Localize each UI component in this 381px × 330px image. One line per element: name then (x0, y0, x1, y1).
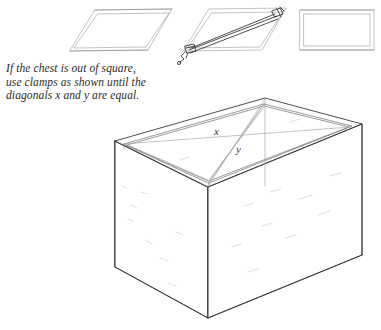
caption-line-1: If the chest is out of square, (6, 62, 186, 76)
figure-page: .ln { fill:none; stroke:#3a3a3a; stroke-… (0, 0, 381, 330)
step-clamped-frame (177, 7, 286, 65)
step-squared-frame (300, 10, 374, 50)
step-out-of-square-frame (70, 9, 172, 51)
chest-left-face (115, 141, 208, 318)
chest-drawing (115, 98, 362, 318)
illustration-canvas: .ln { fill:none; stroke:#3a3a3a; stroke-… (0, 0, 381, 330)
diagonal-label-x: x (214, 125, 219, 137)
caption-line-2: use clamps as shown until the (6, 76, 186, 90)
caption-line-3: diagonals x and y are equal. (6, 89, 186, 103)
caption: If the chest is out of square, use clamp… (6, 62, 186, 103)
chest-right-face (208, 124, 362, 318)
diagonal-label-y: y (236, 143, 241, 155)
